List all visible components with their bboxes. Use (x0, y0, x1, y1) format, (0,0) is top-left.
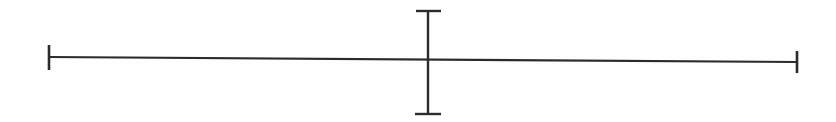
cross-diagram (0, 0, 836, 122)
diagram-canvas (0, 0, 836, 122)
horizontal-line (49, 57, 797, 62)
